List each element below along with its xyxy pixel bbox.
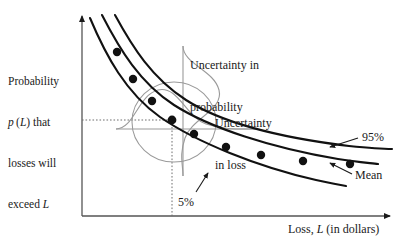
y-axis-label-line-2: p (L) that	[8, 116, 84, 130]
data-point-highlight	[168, 116, 177, 125]
data-point	[148, 97, 156, 105]
annotation-uncertainty-loss: Uncertainty in loss	[215, 88, 272, 186]
data-point	[190, 130, 198, 138]
annotation-uncertainty-probability-line-1: Uncertainty in	[190, 58, 259, 72]
curve-label-95: 95%	[362, 130, 384, 145]
data-point	[299, 157, 307, 165]
curve-label-mean: Mean	[355, 168, 382, 183]
data-point	[129, 75, 137, 83]
data-point	[113, 48, 121, 56]
x-axis-label-prefix: Loss,	[288, 222, 317, 236]
annotation-uncertainty-loss-line-2: in loss	[215, 158, 272, 172]
y-axis-label-line-3: losses will	[8, 157, 84, 171]
annotation-uncertainty-loss-line-1: Uncertainty	[215, 116, 272, 130]
data-point	[346, 160, 354, 168]
y-axis-label-line-1: Probability	[8, 75, 84, 89]
x-axis-label-suffix: (in dollars)	[323, 222, 379, 236]
leader-5	[196, 173, 208, 192]
x-axis-label: Loss, L (in dollars)	[288, 222, 379, 237]
y-axis-label-line-4: exceed L	[8, 198, 84, 212]
projection-lines	[82, 120, 172, 216]
y-axis-label: Probability p (L) that losses will excee…	[8, 48, 84, 225]
curve-label-5: 5%	[178, 195, 194, 210]
